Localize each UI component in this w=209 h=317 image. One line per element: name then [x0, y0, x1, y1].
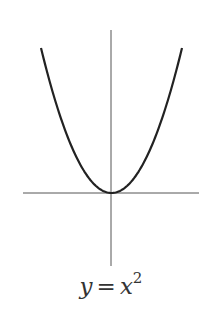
label-lhs: y	[80, 273, 93, 299]
label-base: x	[120, 273, 133, 299]
function-label: y=x2	[0, 271, 209, 299]
label-equals: =	[97, 273, 116, 299]
parabola-plot	[0, 0, 209, 317]
label-exponent: 2	[133, 269, 143, 287]
